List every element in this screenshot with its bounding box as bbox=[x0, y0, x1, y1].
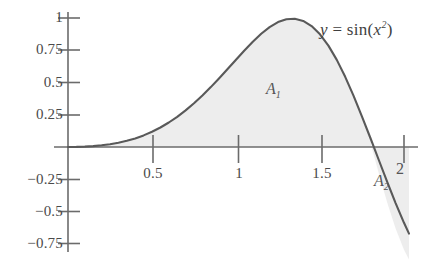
y-axis-tick-label-025: 0.25 bbox=[3, 107, 63, 122]
equation-label: y = sin(x2) bbox=[320, 20, 393, 38]
y-axis-tick-label-neg05: −0.5 bbox=[3, 204, 63, 219]
chart-figure: 1 0.75 0.5 0.25 −0.25 −0.5 −0.75 0.5 1 1… bbox=[0, 0, 423, 261]
region-label-a1-letter: A bbox=[266, 80, 276, 97]
plot-canvas bbox=[0, 0, 423, 261]
region-label-a2-subscript: 2 bbox=[384, 181, 389, 192]
y-axis-tick-label-neg075: −0.75 bbox=[3, 236, 63, 251]
region-label-a1: A1 bbox=[266, 81, 281, 100]
region-label-a2: A2 bbox=[374, 173, 389, 192]
x-axis-tick-label-2: 2 bbox=[396, 161, 404, 177]
x-axis-tick-label-05: 0.5 bbox=[133, 166, 173, 181]
y-axis-tick-label-05: 0.5 bbox=[3, 75, 63, 90]
equation-y: y bbox=[320, 20, 328, 39]
equation-function: sin( bbox=[347, 20, 374, 39]
x-axis-tick-label-1: 1 bbox=[219, 166, 259, 181]
region-label-a1-subscript: 1 bbox=[276, 89, 281, 100]
y-axis-tick-label-075: 0.75 bbox=[3, 42, 63, 57]
region-label-a2-letter: A bbox=[374, 172, 384, 189]
y-axis-tick-label-neg025: −0.25 bbox=[3, 172, 63, 187]
equation-equals: = bbox=[328, 20, 347, 39]
y-axis-tick-label-1: 1 bbox=[3, 10, 63, 25]
x-axis-tick-label-15: 1.5 bbox=[302, 166, 342, 181]
equation-close-paren: ) bbox=[387, 20, 393, 39]
